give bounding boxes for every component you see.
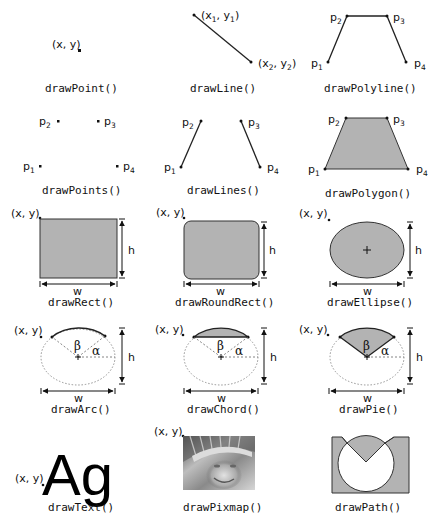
function-label-drawrect: drawRect() bbox=[48, 296, 114, 309]
rect-coord-label: (x, y) bbox=[11, 207, 40, 220]
points-p3-label: p3 bbox=[104, 115, 116, 130]
chord-beta-label: β bbox=[217, 339, 224, 353]
qpainter-primitives-diagram: (x, y) drawPoint() (x1, y1) (x2, y2) dra… bbox=[0, 0, 437, 527]
pixmap-image bbox=[183, 436, 255, 490]
draw-polyline-example: p2 p3 p1 p4 drawPolyline() bbox=[311, 11, 426, 95]
function-label-drawpie: drawPie() bbox=[339, 403, 399, 416]
draw-pixmap-example: (x, y) drawPixmap() bbox=[154, 425, 262, 514]
draw-path-example: drawPath() bbox=[332, 436, 409, 514]
point-coord-label: (x, y) bbox=[52, 38, 81, 51]
polygon-p2-label: p2 bbox=[328, 113, 340, 128]
arc-alpha-label: α bbox=[92, 344, 100, 358]
rect-height-label: h bbox=[128, 244, 135, 257]
line-end-dot bbox=[250, 61, 253, 64]
points-p4-label: p4 bbox=[123, 160, 135, 175]
polygon-p3-label: p3 bbox=[393, 113, 405, 128]
chord-coord-label: (x, y) bbox=[155, 323, 184, 336]
function-label-drawroundrect: drawRoundRect() bbox=[175, 296, 274, 309]
text-sample: Ag bbox=[42, 442, 113, 507]
polygon-p4-label: p4 bbox=[416, 163, 428, 178]
function-label-drawpath: drawPath() bbox=[335, 501, 401, 514]
roundrect-height-label: h bbox=[269, 244, 276, 257]
arc-height-label: h bbox=[128, 351, 135, 364]
point-dot bbox=[78, 49, 81, 52]
ellipse-coord-label: (x, y) bbox=[299, 207, 328, 220]
lines-p4-label: p4 bbox=[267, 161, 279, 176]
draw-lines-example: p2 p3 p1 p4 drawLines() bbox=[164, 116, 279, 197]
function-label-drawellipse: drawEllipse() bbox=[327, 296, 413, 309]
draw-points-example: p2 p3 p1 p4 drawPoints() bbox=[23, 115, 135, 197]
ellipse-height-label: h bbox=[415, 244, 422, 257]
function-label-drawarc: drawArc() bbox=[51, 403, 111, 416]
function-label-drawlines: drawLines() bbox=[187, 184, 260, 197]
draw-line-example: (x1, y1) (x2, y2) drawLine() bbox=[190, 9, 296, 95]
lines-p1-label: p1 bbox=[164, 161, 176, 176]
draw-point-example: (x, y) drawPoint() bbox=[45, 38, 118, 95]
polyline-p4-label: p4 bbox=[414, 57, 426, 72]
draw-rect-example: (x, y) h w drawRect() bbox=[11, 207, 135, 309]
arc-coord-label: (x, y) bbox=[14, 324, 43, 337]
pie-beta-label: β bbox=[363, 339, 370, 353]
draw-ellipse-example: (x, y) h w drawEllipse() bbox=[299, 207, 422, 309]
polygon-p1-label: p1 bbox=[308, 163, 320, 178]
roundrect-shape bbox=[184, 221, 259, 279]
function-label-drawpolygon: drawPolygon() bbox=[325, 187, 411, 200]
draw-arc-example: (x, y) β α h w drawArc() bbox=[14, 324, 135, 416]
draw-roundrect-example: (x, y) h w drawRoundRect() bbox=[156, 206, 276, 309]
pie-coord-label: (x, y) bbox=[299, 323, 328, 336]
chord-height-label: h bbox=[270, 351, 277, 364]
pixmap-coord-label: (x, y) bbox=[154, 425, 183, 438]
function-label-drawpoint: drawPoint() bbox=[45, 82, 118, 95]
line-end-label: (x2, y2) bbox=[258, 57, 296, 72]
chord-shape bbox=[194, 328, 248, 337]
function-label-drawpixmap: drawPixmap() bbox=[183, 501, 262, 514]
points-p2-label: p2 bbox=[39, 115, 51, 130]
polyline-p1-label: p1 bbox=[311, 57, 323, 72]
lines-p2-label: p2 bbox=[182, 116, 194, 131]
text-coord-label: (x, y) bbox=[15, 472, 44, 485]
rect-shape bbox=[40, 219, 117, 278]
pie-alpha-label: α bbox=[381, 344, 389, 358]
draw-text-example: Ag (x, y) drawText() bbox=[15, 442, 114, 514]
function-label-drawline: drawLine() bbox=[190, 82, 256, 95]
function-label-drawtext: drawText() bbox=[48, 501, 114, 514]
pie-height-label: h bbox=[416, 351, 423, 364]
polyline-p3-label: p3 bbox=[393, 11, 405, 26]
draw-pie-example: (x, y) β α h w drawPie() bbox=[299, 323, 423, 416]
draw-chord-example: (x, y) β α h w drawChord() bbox=[155, 323, 277, 416]
line-segment bbox=[194, 15, 251, 62]
draw-polygon-example: p2 p3 p1 p4 drawPolygon() bbox=[308, 113, 428, 200]
lines-p3-label: p3 bbox=[248, 116, 260, 131]
function-label-drawpoints: drawPoints() bbox=[42, 184, 121, 197]
function-label-drawpolyline: drawPolyline() bbox=[324, 82, 417, 95]
polyline-p2-label: p2 bbox=[330, 11, 342, 26]
points-p1-label: p1 bbox=[23, 160, 35, 175]
function-label-drawchord: drawChord() bbox=[187, 403, 260, 416]
arc-beta-label: β bbox=[74, 339, 81, 353]
chord-alpha-label: α bbox=[235, 344, 243, 358]
line-start-dot bbox=[193, 14, 196, 17]
line-start-label: (x1, y1) bbox=[201, 9, 239, 24]
roundrect-coord-label: (x, y) bbox=[156, 206, 185, 219]
